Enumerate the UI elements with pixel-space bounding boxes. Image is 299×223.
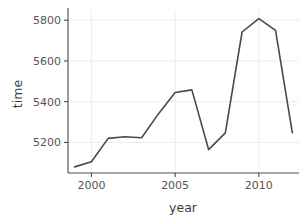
chart-figure: 5200540056005800 200020052010 year time [0, 0, 299, 223]
line-chart-canvas: 5200540056005800 200020052010 year time [0, 0, 299, 223]
y-axis-title: time [10, 80, 25, 109]
tick-label-y: 5400 [33, 96, 61, 109]
tick-label-y: 5600 [33, 55, 61, 68]
tick-label-x: 2010 [245, 179, 273, 192]
tick-label-y: 5800 [33, 14, 61, 27]
tick-label-x: 2005 [161, 179, 189, 192]
x-axis-title: year [169, 200, 198, 215]
tick-label-y: 5200 [33, 136, 61, 149]
tick-label-x: 2000 [77, 179, 105, 192]
